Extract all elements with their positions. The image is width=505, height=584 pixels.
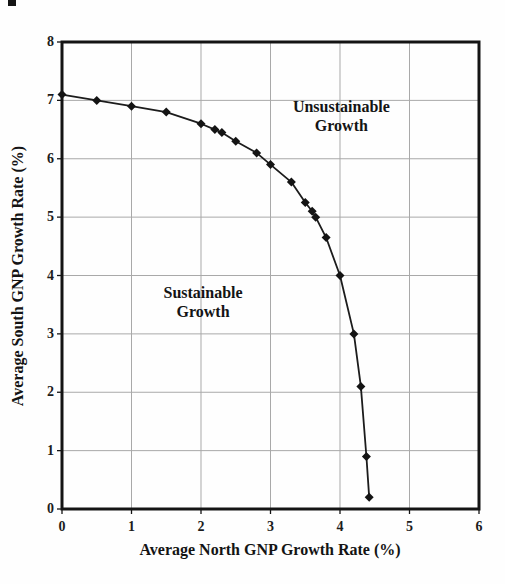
data-point-marker bbox=[58, 90, 67, 99]
x-tick-label: 6 bbox=[476, 520, 483, 534]
y-tick-label: 2 bbox=[32, 385, 54, 399]
data-point-marker bbox=[231, 137, 240, 146]
y-tick-label: 7 bbox=[32, 93, 54, 107]
x-tick-label: 5 bbox=[406, 520, 413, 534]
x-tick-label: 0 bbox=[59, 520, 66, 534]
data-point-marker bbox=[197, 119, 206, 128]
plot-area bbox=[0, 0, 505, 584]
y-tick-label: 1 bbox=[32, 444, 54, 458]
y-axis-title: Average South GNP Growth Rate (%) bbox=[9, 146, 27, 406]
data-point-marker bbox=[162, 108, 171, 117]
x-axis-title: Average North GNP Growth Rate (%) bbox=[139, 541, 400, 559]
data-point-marker bbox=[322, 233, 331, 242]
y-tick-label: 3 bbox=[32, 327, 54, 341]
y-tick-label: 8 bbox=[32, 35, 54, 49]
region-label-unsustainable: UnsustainableGrowth bbox=[293, 97, 390, 135]
data-point-marker bbox=[127, 102, 136, 111]
data-point-marker bbox=[362, 452, 371, 461]
data-point-marker bbox=[336, 271, 345, 280]
y-tick-label: 4 bbox=[32, 269, 54, 283]
data-point-marker bbox=[365, 493, 374, 502]
region-label-line: Growth bbox=[164, 302, 243, 321]
x-tick-label: 3 bbox=[267, 520, 274, 534]
growth-frontier-chart: 0123456 012345678 Average North GNP Grow… bbox=[0, 0, 505, 584]
data-point-marker bbox=[349, 329, 358, 338]
region-label-line: Unsustainable bbox=[293, 97, 390, 116]
x-tick-label: 4 bbox=[337, 520, 344, 534]
y-tick-label: 5 bbox=[32, 210, 54, 224]
data-point-marker bbox=[356, 382, 365, 391]
data-point-marker bbox=[92, 96, 101, 105]
region-label-line: Growth bbox=[293, 116, 390, 135]
region-label-line: Sustainable bbox=[164, 283, 243, 302]
x-tick-label: 2 bbox=[198, 520, 205, 534]
y-tick-label: 0 bbox=[32, 502, 54, 516]
y-tick-label: 6 bbox=[32, 152, 54, 166]
region-label-sustainable: SustainableGrowth bbox=[164, 283, 243, 321]
x-tick-label: 1 bbox=[128, 520, 135, 534]
